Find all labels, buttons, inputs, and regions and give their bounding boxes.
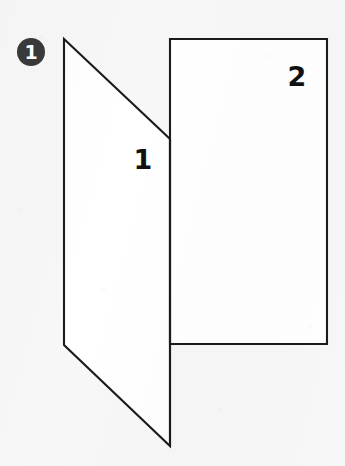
step-badge-label: 1: [24, 41, 37, 63]
folded-paper-diagram: 1 2 1: [0, 0, 345, 466]
left-flap-fill: [64, 39, 170, 446]
figure-container: 1 2 1: [0, 0, 345, 466]
panel-label-1: 1: [134, 144, 153, 175]
panel-label-2: 2: [288, 61, 307, 92]
